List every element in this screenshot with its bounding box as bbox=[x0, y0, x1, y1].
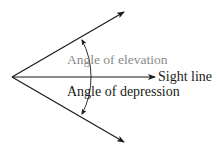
upper-ray-arrow bbox=[12, 12, 124, 77]
angle-of-depression-label: Angle of depression bbox=[67, 85, 180, 99]
sight-line-label: Sight line bbox=[158, 70, 212, 84]
angle-of-elevation-label: Angle of elevation bbox=[67, 53, 167, 67]
